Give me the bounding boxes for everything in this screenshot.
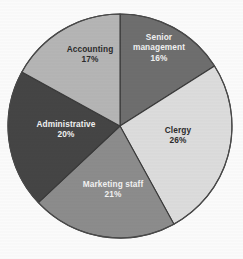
pie-slice-value-clergy: 26% bbox=[170, 135, 187, 145]
pie-slice-value-marketing-staff: 21% bbox=[105, 189, 122, 199]
pie-slice-label-administrative: Administrative bbox=[36, 119, 95, 129]
pie-slice-label-accounting: Accounting bbox=[67, 44, 114, 54]
pie-slice-label-senior-management: management bbox=[133, 42, 185, 52]
pie-slice-value-administrative: 20% bbox=[58, 129, 75, 139]
pie-chart-svg: Seniormanagement16%Clergy26%Marketing st… bbox=[0, 0, 243, 259]
pie-slice-label-senior-management: Senior bbox=[146, 32, 173, 42]
pie-chart: Seniormanagement16%Clergy26%Marketing st… bbox=[0, 0, 243, 259]
pie-slice-value-accounting: 17% bbox=[82, 54, 99, 64]
pie-slice-value-senior-management: 16% bbox=[151, 53, 168, 63]
pie-slice-label-marketing-staff: Marketing staff bbox=[83, 179, 144, 189]
pie-slice-label-clergy: Clergy bbox=[165, 125, 192, 135]
